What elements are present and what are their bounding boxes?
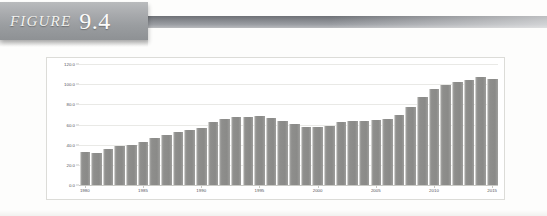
bar <box>126 145 137 185</box>
bar <box>231 117 242 185</box>
bar <box>91 153 102 185</box>
x-axis-tick-mark <box>376 185 377 188</box>
bar <box>114 146 125 185</box>
y-axis-tick-label: 60.0 <box>47 122 75 127</box>
bar <box>347 121 358 185</box>
x-axis-tick-label: 1980 <box>80 188 90 193</box>
bar <box>219 119 230 185</box>
bar <box>429 89 440 185</box>
figure-number: 9.4 <box>79 8 111 35</box>
bar <box>324 126 335 185</box>
chart-plot-wrapper: 0.020.040.060.080.0100.0120.0 1980198519… <box>47 58 504 199</box>
x-axis-tick-mark <box>259 185 260 188</box>
figure-header-rule-fade <box>330 16 547 28</box>
x-axis-tick-label: 2015 <box>487 188 497 193</box>
x-axis-tick-label: 2010 <box>429 188 439 193</box>
bar-series <box>79 64 498 185</box>
y-axis-tick-label: 40.0 <box>47 142 75 147</box>
y-axis-tick-label: 80.0 <box>47 102 75 107</box>
bar <box>371 120 382 185</box>
bar <box>417 97 428 185</box>
y-axis-tick-label: 120.0 <box>47 62 75 67</box>
x-axis-tick-label: 2000 <box>313 188 323 193</box>
bar <box>289 124 300 186</box>
x-axis-tick-label: 1995 <box>255 188 265 193</box>
bar <box>208 122 219 185</box>
bar <box>138 142 149 185</box>
bar <box>452 82 463 185</box>
bar <box>277 121 288 185</box>
y-axis-tick-label: 20.0 <box>47 162 75 167</box>
chart-x-axis: 19801985199019952000200520102015 <box>79 185 498 199</box>
chart-frame: 0.020.040.060.080.0100.0120.0 1980198519… <box>46 57 505 200</box>
x-axis-tick-mark <box>492 185 493 188</box>
bar <box>266 118 277 185</box>
bar <box>173 132 184 185</box>
y-axis-tick-label: 100.0 <box>47 82 75 87</box>
bar <box>475 77 486 185</box>
figure-label: FIGURE <box>10 13 71 30</box>
bar <box>301 127 312 185</box>
bar <box>440 85 451 185</box>
x-axis-tick-label: 1985 <box>138 188 148 193</box>
figure-tab: FIGURE 9.4 <box>0 2 148 40</box>
bar <box>464 80 475 185</box>
y-axis-tick-label: 0.0 <box>47 183 75 188</box>
bar <box>382 119 393 185</box>
bar <box>394 115 405 185</box>
bar <box>405 107 416 185</box>
bar <box>196 128 207 185</box>
x-axis-tick-mark <box>143 185 144 188</box>
bar <box>359 121 370 185</box>
chart-plot-area <box>79 64 498 185</box>
bar <box>80 152 91 185</box>
bar <box>487 79 498 185</box>
x-axis-tick-mark <box>434 185 435 188</box>
bar <box>149 138 160 185</box>
bar <box>103 149 114 185</box>
bar <box>254 116 265 185</box>
figure-tab-shadow <box>0 40 148 47</box>
x-axis-tick-label: 2005 <box>371 188 381 193</box>
bar <box>336 122 347 185</box>
bar <box>161 135 172 185</box>
figure-header: FIGURE 9.4 <box>0 0 547 48</box>
page-bottom-edge <box>0 210 547 216</box>
x-axis-tick-mark <box>85 185 86 188</box>
bar <box>243 117 254 185</box>
bar <box>184 130 195 185</box>
x-axis-tick-label: 1990 <box>196 188 206 193</box>
x-axis-tick-mark <box>318 185 319 188</box>
bar <box>312 127 323 185</box>
x-axis-tick-mark <box>201 185 202 188</box>
